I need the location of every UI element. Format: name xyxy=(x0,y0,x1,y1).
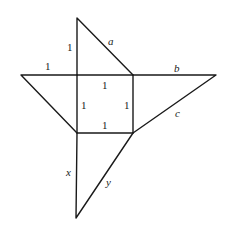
right-triangle xyxy=(133,75,216,133)
label-square-left: 1 xyxy=(81,99,87,111)
label-square-right: 1 xyxy=(124,99,130,111)
label-left-leg: 1 xyxy=(45,60,51,72)
label-x: x xyxy=(65,166,71,178)
label-y: y xyxy=(105,176,111,188)
label-a: a xyxy=(108,35,114,47)
label-top-leg: 1 xyxy=(67,41,73,53)
bottom-triangle xyxy=(76,133,133,218)
geometry-diagram: 1 1 1 1 1 1 a b c x y xyxy=(0,0,229,230)
left-triangle xyxy=(21,75,77,133)
label-c: c xyxy=(175,107,180,119)
top-triangle xyxy=(77,18,133,75)
label-square-top: 1 xyxy=(102,79,108,91)
label-square-bottom: 1 xyxy=(102,119,108,131)
label-b: b xyxy=(174,62,180,74)
